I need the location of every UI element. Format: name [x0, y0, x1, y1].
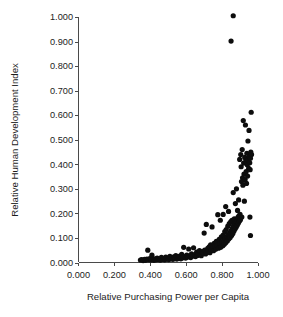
- x-axis-title: Relative Purchasing Power per Capita: [87, 291, 250, 302]
- x-tick-label: 0.200: [103, 270, 126, 280]
- y-axis-title: Relative Human Development Index: [9, 63, 20, 217]
- data-point: [243, 122, 248, 127]
- x-tick-label: 0.000: [67, 270, 90, 280]
- data-point: [248, 167, 253, 172]
- data-point: [245, 173, 250, 178]
- y-tick-label: 0.100: [50, 233, 73, 243]
- data-point: [240, 147, 245, 152]
- y-tick-label: 0.400: [50, 160, 73, 170]
- data-point: [248, 233, 253, 238]
- x-tick-label: 0.600: [175, 270, 198, 280]
- y-tick-label: 1.000: [50, 12, 73, 22]
- y-tick-label: 0.500: [50, 135, 73, 145]
- data-point: [245, 138, 250, 143]
- data-point: [228, 38, 233, 43]
- scatter-chart: 0.0000.1000.2000.3000.4000.5000.6000.700…: [0, 0, 283, 317]
- y-tick-marks: [75, 18, 79, 264]
- y-tick-label: 0.300: [50, 184, 73, 194]
- data-point: [221, 212, 226, 217]
- x-tick-label: 1.000: [247, 270, 270, 280]
- data-point: [209, 224, 214, 229]
- data-point: [145, 248, 150, 253]
- x-tick-labels: 0.0000.2000.4000.6000.8001.000: [67, 270, 270, 280]
- data-point: [215, 212, 220, 217]
- plot-canvas: 0.0000.1000.2000.3000.4000.5000.6000.700…: [0, 0, 283, 317]
- data-point: [186, 246, 191, 251]
- x-tick-marks: [79, 263, 259, 267]
- y-tick-label: 0.700: [50, 86, 73, 96]
- data-point: [249, 110, 254, 115]
- data-point: [242, 199, 247, 204]
- x-tick-label: 0.800: [211, 270, 234, 280]
- data-point: [202, 230, 207, 235]
- data-point: [191, 245, 196, 250]
- x-tick-label: 0.400: [139, 270, 162, 280]
- data-point: [181, 245, 186, 250]
- data-point: [234, 186, 239, 191]
- data-point: [247, 160, 252, 165]
- data-point: [218, 218, 223, 223]
- data-point: [237, 157, 242, 162]
- data-point: [236, 197, 241, 202]
- data-point-group: [138, 13, 254, 263]
- data-point: [247, 214, 252, 219]
- data-point: [241, 118, 246, 123]
- y-tick-label: 0.200: [50, 209, 73, 219]
- y-tick-label: 0.900: [50, 37, 73, 47]
- data-point: [244, 181, 249, 186]
- data-point: [249, 152, 254, 157]
- y-tick-label: 0.800: [50, 61, 73, 71]
- data-point: [231, 13, 236, 18]
- data-point: [204, 222, 209, 227]
- data-point: [239, 214, 244, 219]
- y-tick-label: 0.000: [50, 258, 73, 268]
- y-tick-label: 0.600: [50, 110, 73, 120]
- data-point: [246, 128, 251, 133]
- data-point: [223, 204, 228, 209]
- data-point: [226, 209, 231, 214]
- y-tick-labels: 0.0000.1000.2000.3000.4000.5000.6000.700…: [50, 12, 73, 268]
